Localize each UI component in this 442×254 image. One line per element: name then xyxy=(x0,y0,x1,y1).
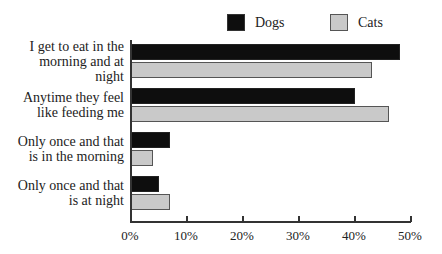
tick-mark xyxy=(410,216,412,222)
tick-label: 50% xyxy=(390,228,430,244)
legend-item-cats: Cats xyxy=(330,14,383,31)
bar-cats xyxy=(131,62,372,78)
bar-dogs xyxy=(131,44,400,60)
tick-label: 40% xyxy=(334,228,374,244)
bar-dogs xyxy=(131,132,170,148)
tick-label: 20% xyxy=(222,228,262,244)
legend-label-dogs: Dogs xyxy=(255,15,285,31)
tick-mark xyxy=(298,216,300,222)
tick-label: 30% xyxy=(278,228,318,244)
tick-mark xyxy=(242,216,244,222)
tick-mark xyxy=(354,216,356,222)
cats-swatch xyxy=(330,14,348,31)
tick-mark xyxy=(186,216,188,222)
bar-dogs xyxy=(131,176,159,192)
legend-item-dogs: Dogs xyxy=(227,14,285,31)
bar-cats xyxy=(131,194,170,210)
y-axis xyxy=(130,40,132,222)
x-axis xyxy=(130,221,411,223)
category-label: Only once and thatis in the morning xyxy=(18,134,124,164)
bar-dogs xyxy=(131,88,355,104)
dogs-swatch xyxy=(227,14,245,31)
tick-label: 10% xyxy=(166,228,206,244)
bar-cats xyxy=(131,150,153,166)
bar-cats xyxy=(131,106,389,122)
category-label: I get to eat in themorning and atnight xyxy=(30,39,124,84)
legend-label-cats: Cats xyxy=(358,15,383,31)
category-label: Only once and thatis at night xyxy=(18,178,124,208)
category-label: Anytime they feellike feeding me xyxy=(23,90,124,120)
tick-label: 0% xyxy=(110,228,150,244)
